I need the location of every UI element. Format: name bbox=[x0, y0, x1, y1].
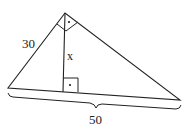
hypotenuse-brace bbox=[8, 93, 181, 109]
altitude-line bbox=[63, 13, 65, 92]
triangle-diagram: 30 x 50 bbox=[0, 0, 196, 135]
foot-dot bbox=[69, 84, 71, 86]
apex-right-angle-marker bbox=[57, 22, 78, 31]
hypotenuse-label: 50 bbox=[89, 112, 102, 127]
altitude-label: x bbox=[67, 49, 73, 63]
apex-dot bbox=[68, 21, 70, 23]
triangle bbox=[8, 13, 180, 100]
leg-label: 30 bbox=[22, 36, 35, 51]
